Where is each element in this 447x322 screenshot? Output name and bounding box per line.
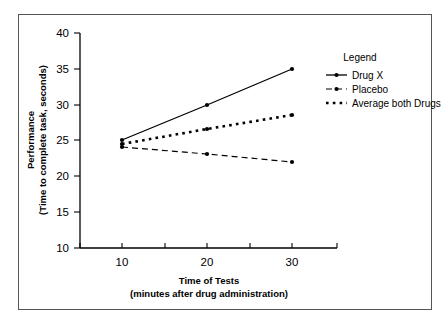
- legend-label-placebo: Placebo: [352, 84, 389, 95]
- y-axis-subtitle: (Time to complete task, seconds): [37, 65, 48, 215]
- line-chart: 40 35 30 25 20 15 10 Performance (Time t…: [0, 0, 447, 322]
- x-tick-label-10: 10: [116, 256, 129, 268]
- legend-label-drug-x: Drug X: [352, 70, 383, 81]
- y-axis: 40 35 30 25 20 15 10 Performance (Time t…: [25, 27, 80, 254]
- data-point: [290, 113, 294, 117]
- x-axis: 10 20 30 Time of Tests (minutes after dr…: [80, 243, 337, 299]
- x-tick-label-20: 20: [201, 256, 214, 268]
- y-tick-label-35: 35: [56, 63, 69, 75]
- y-axis-title: Performance: [25, 111, 36, 169]
- y-tick-label-20: 20: [56, 170, 69, 182]
- data-point: [120, 145, 124, 149]
- x-axis-subtitle: (minutes after drug administration): [130, 288, 288, 299]
- y-tick-label-10: 10: [56, 242, 69, 254]
- legend-item-placebo[interactable]: Placebo: [326, 84, 389, 95]
- legend-label-average-both-drugs: Average both Drugs: [352, 98, 441, 109]
- data-point: [290, 160, 294, 164]
- legend-item-drug-x[interactable]: Drug X: [326, 70, 383, 81]
- x-tick-label-30: 30: [286, 256, 299, 268]
- data-point: [120, 138, 124, 142]
- legend-title: Legend: [343, 52, 376, 63]
- y-tick-label-25: 25: [56, 134, 69, 146]
- x-axis-title: Time of Tests: [179, 275, 239, 286]
- y-tick-label-40: 40: [56, 27, 69, 39]
- legend-item-average-both-drugs[interactable]: Average both Drugs: [326, 98, 441, 109]
- y-tick-label-30: 30: [56, 99, 69, 111]
- data-point: [205, 103, 209, 107]
- legend-marker-dot: [334, 87, 338, 91]
- series-placebo: [120, 145, 294, 164]
- y-tick-label-15: 15: [56, 206, 69, 218]
- legend-marker-dot: [334, 73, 338, 77]
- data-point: [205, 152, 209, 156]
- data-point: [290, 67, 294, 71]
- figure-root: 40 35 30 25 20 15 10 Performance (Time t…: [0, 0, 447, 322]
- data-point: [205, 127, 209, 131]
- legend: Legend Drug X Placebo Average both Drugs: [326, 52, 441, 109]
